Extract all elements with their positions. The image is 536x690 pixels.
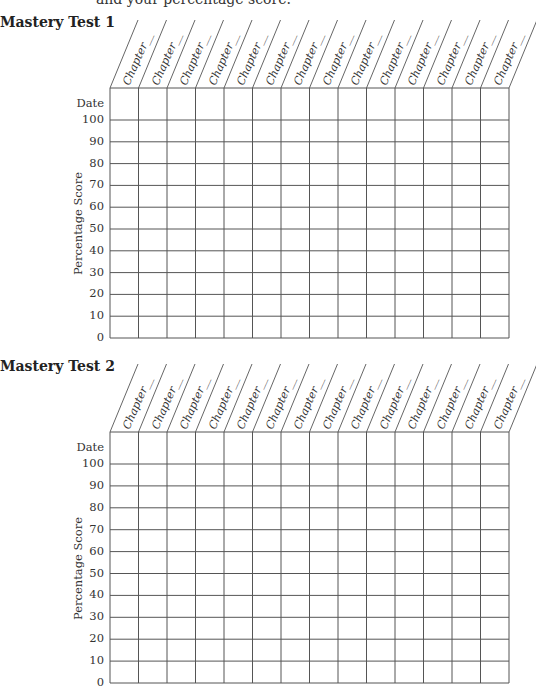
score-cell[interactable] [424, 508, 453, 530]
date-cell[interactable] [110, 432, 139, 464]
score-cell[interactable] [310, 574, 339, 596]
score-cell[interactable] [338, 639, 367, 661]
score-cell[interactable] [367, 661, 396, 683]
date-cell[interactable] [395, 88, 424, 120]
score-cell[interactable] [196, 120, 225, 142]
score-cell[interactable] [481, 530, 510, 552]
score-cell[interactable] [196, 316, 225, 338]
score-cell[interactable] [281, 142, 310, 164]
score-cell[interactable] [310, 251, 339, 273]
date-cell[interactable] [424, 88, 453, 120]
score-cell[interactable] [110, 464, 139, 486]
score-cell[interactable] [367, 316, 396, 338]
score-cell[interactable] [424, 639, 453, 661]
score-cell[interactable] [281, 316, 310, 338]
score-cell[interactable] [281, 294, 310, 316]
score-cell[interactable] [110, 639, 139, 661]
score-cell[interactable] [167, 617, 196, 639]
score-cell[interactable] [224, 207, 253, 229]
score-cell[interactable] [224, 574, 253, 596]
score-cell[interactable] [281, 530, 310, 552]
score-cell[interactable] [424, 574, 453, 596]
score-cell[interactable] [395, 661, 424, 683]
date-cell[interactable] [281, 432, 310, 464]
date-cell[interactable] [481, 432, 510, 464]
score-cell[interactable] [424, 617, 453, 639]
score-cell[interactable] [395, 251, 424, 273]
score-cell[interactable] [110, 661, 139, 683]
score-cell[interactable] [224, 164, 253, 186]
score-cell[interactable] [395, 464, 424, 486]
score-cell[interactable] [224, 273, 253, 295]
score-cell[interactable] [224, 486, 253, 508]
score-cell[interactable] [338, 574, 367, 596]
score-cell[interactable] [281, 661, 310, 683]
score-cell[interactable] [338, 464, 367, 486]
score-cell[interactable] [367, 142, 396, 164]
score-cell[interactable] [310, 120, 339, 142]
score-cell[interactable] [110, 530, 139, 552]
date-cell[interactable] [395, 432, 424, 464]
score-cell[interactable] [481, 486, 510, 508]
score-cell[interactable] [139, 552, 168, 574]
score-cell[interactable] [424, 464, 453, 486]
score-cell[interactable] [281, 595, 310, 617]
score-cell[interactable] [281, 639, 310, 661]
score-cell[interactable] [338, 229, 367, 251]
score-cell[interactable] [310, 552, 339, 574]
date-cell[interactable] [224, 88, 253, 120]
date-cell[interactable] [110, 88, 139, 120]
date-cell[interactable] [310, 88, 339, 120]
score-cell[interactable] [452, 229, 481, 251]
score-cell[interactable] [338, 530, 367, 552]
score-cell[interactable] [367, 639, 396, 661]
score-cell[interactable] [253, 574, 282, 596]
score-cell[interactable] [196, 185, 225, 207]
score-cell[interactable] [338, 617, 367, 639]
score-cell[interactable] [196, 595, 225, 617]
score-cell[interactable] [167, 552, 196, 574]
score-cell[interactable] [452, 552, 481, 574]
score-cell[interactable] [253, 464, 282, 486]
score-cell[interactable] [167, 273, 196, 295]
score-cell[interactable] [281, 207, 310, 229]
score-cell[interactable] [452, 251, 481, 273]
score-cell[interactable] [481, 273, 510, 295]
score-cell[interactable] [110, 229, 139, 251]
score-cell[interactable] [281, 508, 310, 530]
date-cell[interactable] [139, 432, 168, 464]
score-cell[interactable] [139, 595, 168, 617]
score-cell[interactable] [253, 639, 282, 661]
score-cell[interactable] [338, 185, 367, 207]
date-cell[interactable] [338, 88, 367, 120]
score-cell[interactable] [452, 574, 481, 596]
score-cell[interactable] [224, 185, 253, 207]
score-cell[interactable] [395, 207, 424, 229]
score-cell[interactable] [452, 273, 481, 295]
score-cell[interactable] [310, 464, 339, 486]
score-cell[interactable] [110, 574, 139, 596]
date-cell[interactable] [253, 432, 282, 464]
score-cell[interactable] [481, 207, 510, 229]
date-cell[interactable] [367, 88, 396, 120]
score-cell[interactable] [196, 229, 225, 251]
score-cell[interactable] [196, 639, 225, 661]
score-cell[interactable] [452, 142, 481, 164]
score-cell[interactable] [367, 617, 396, 639]
score-cell[interactable] [338, 142, 367, 164]
score-cell[interactable] [253, 120, 282, 142]
score-cell[interactable] [139, 661, 168, 683]
score-cell[interactable] [338, 294, 367, 316]
score-cell[interactable] [281, 486, 310, 508]
date-cell[interactable] [196, 88, 225, 120]
score-cell[interactable] [424, 530, 453, 552]
score-cell[interactable] [338, 595, 367, 617]
score-cell[interactable] [224, 316, 253, 338]
score-cell[interactable] [196, 617, 225, 639]
score-cell[interactable] [196, 207, 225, 229]
score-cell[interactable] [338, 486, 367, 508]
score-cell[interactable] [196, 251, 225, 273]
score-cell[interactable] [167, 185, 196, 207]
score-cell[interactable] [110, 617, 139, 639]
score-cell[interactable] [310, 595, 339, 617]
